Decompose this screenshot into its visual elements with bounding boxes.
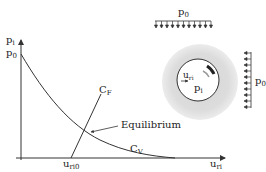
- x-tick-uri0: uri0: [63, 158, 80, 171]
- top-load-label: p0: [178, 6, 189, 19]
- ground-reaction-curve: [21, 54, 175, 158]
- convergence-confinement-diagram: pi p0 uri uri0 CV CF Equilibrium: [0, 0, 266, 172]
- top-load-arrows: [155, 21, 213, 28]
- top-load: p0: [155, 6, 213, 28]
- support-characteristic-line: [71, 94, 101, 158]
- equilibrium-pointer: [91, 126, 118, 132]
- x-axis-label: uri: [210, 158, 223, 171]
- right-load: p0: [244, 52, 266, 109]
- tunnel-sketch: uri pi: [162, 44, 238, 120]
- equilibrium-label: Equilibrium: [121, 119, 182, 130]
- cv-label: CV: [130, 143, 144, 156]
- right-load-arrows: [244, 52, 251, 109]
- tunnel-opening: [177, 59, 219, 101]
- y-tick-p0: p0: [6, 47, 17, 60]
- y-axis-label: pi: [6, 34, 15, 47]
- right-load-label: p0: [255, 75, 266, 88]
